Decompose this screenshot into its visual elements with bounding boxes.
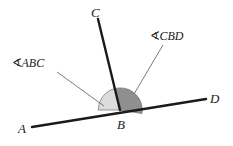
point-label-c: C: [91, 6, 100, 19]
angle-label-abc: ∢ABC: [12, 57, 44, 69]
geometry-diagram: A B C D ∢ABC ∢CBD: [0, 0, 233, 146]
leader-line-abc: [57, 72, 104, 106]
angle-symbol-icon: ∢: [12, 56, 22, 70]
angle-label-cbd-text: CBD: [160, 29, 184, 43]
point-label-a: A: [18, 122, 26, 135]
angle-label-cbd: ∢CBD: [150, 30, 184, 42]
point-label-b: B: [117, 118, 125, 131]
angle-label-abc-text: ABC: [22, 56, 45, 70]
point-label-d: D: [210, 92, 219, 105]
leader-line-cbd: [134, 45, 163, 94]
angle-symbol-icon: ∢: [150, 29, 160, 43]
